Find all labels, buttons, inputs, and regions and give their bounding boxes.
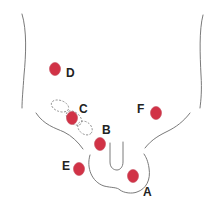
anatomy-diagram: D C B E A F [0,0,217,207]
marker-d [50,63,61,76]
right-flank-outline [200,15,203,108]
marker-c [67,112,78,125]
label-f: F [137,102,144,116]
penis-outline [110,142,123,170]
marker-a [128,170,139,183]
scrotum-outline [89,154,150,193]
label-a: A [143,185,152,199]
right-inguinal-outline [145,113,190,148]
label-e: E [62,159,70,173]
label-d: D [66,66,75,80]
label-c: C [79,102,88,116]
marker-e [74,163,85,176]
marker-f [151,107,162,120]
marker-b [95,138,106,151]
left-flank-outline [22,14,26,108]
label-b: B [102,123,111,137]
